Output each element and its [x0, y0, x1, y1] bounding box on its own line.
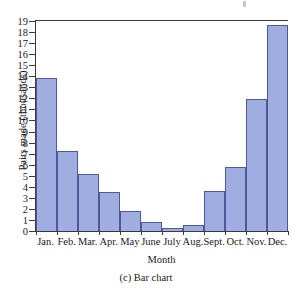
y-tick-label: 7 [23, 148, 28, 159]
y-tick-label: 9 [23, 126, 28, 137]
x-tick-mark [57, 231, 58, 235]
y-tick-label: 5 [23, 170, 28, 181]
x-tick-label: Dec. [267, 236, 288, 247]
x-axis-title: Month [35, 254, 288, 265]
figure-caption: (c) Bar chart [0, 272, 292, 283]
y-tick-mark [29, 187, 36, 188]
y-tick-mark [29, 154, 36, 155]
x-tick-label: Jan. [35, 236, 56, 247]
y-tick-mark [29, 43, 36, 44]
x-tick-mark [162, 231, 163, 235]
y-tick-label: 10 [18, 115, 29, 126]
y-tick-label: 2 [23, 203, 28, 214]
y-tick-label: 1 [23, 214, 28, 225]
x-tick-mark [204, 231, 205, 235]
bar-slot [162, 21, 183, 231]
x-tick-mark [246, 231, 247, 235]
bar [183, 225, 204, 231]
bar [78, 174, 99, 231]
bar [246, 99, 267, 231]
x-tick-label: July [161, 236, 182, 247]
y-tick-mark [29, 132, 36, 133]
x-tick-mark [225, 231, 226, 235]
x-tick-mark [36, 231, 37, 235]
x-tick-label: Feb. [56, 236, 77, 247]
x-tick-label: May [119, 236, 140, 247]
y-tick-mark [29, 65, 36, 66]
y-tick-mark [29, 109, 36, 110]
y-tick-mark [29, 21, 36, 22]
x-tick-mark [141, 231, 142, 235]
bar [141, 222, 162, 231]
bar-slot [183, 21, 204, 231]
y-tick-label: 4 [23, 181, 28, 192]
y-tick-label: 15 [18, 60, 29, 71]
y-tick-mark [29, 176, 36, 177]
y-tick-label: 14 [18, 71, 29, 82]
y-tick-mark [29, 76, 36, 77]
bar-slot [36, 21, 57, 231]
y-tick-mark [29, 54, 36, 55]
bar-slot [57, 21, 78, 231]
bar [204, 191, 225, 231]
x-tick-label: Nov. [246, 236, 267, 247]
plot-area: 012345678910111213141516171819 [35, 20, 288, 232]
bar [99, 192, 120, 231]
y-tick-label: 0 [23, 226, 28, 237]
x-tick-mark [183, 231, 184, 235]
y-tick-mark [29, 220, 36, 221]
y-tick-label: 18 [18, 27, 29, 38]
y-tick-mark [29, 231, 36, 232]
bar-slot [225, 21, 246, 231]
bar [162, 228, 183, 231]
bar [225, 167, 246, 231]
y-tick-mark [29, 32, 36, 33]
bar-slot [204, 21, 225, 231]
y-tick-label: 6 [23, 159, 28, 170]
x-tick-label: Oct. [225, 236, 246, 247]
x-tick-label: Mar. [77, 236, 98, 247]
bar-slot [246, 21, 267, 231]
bar [120, 211, 141, 231]
bar-chart-figure: Pairs made (thousands) 01234567891011121… [0, 0, 292, 289]
y-tick-mark [29, 198, 36, 199]
y-tick-mark [29, 143, 36, 144]
y-tick-label: 17 [18, 38, 29, 49]
y-tick-mark [29, 87, 36, 88]
y-tick-mark [29, 120, 36, 121]
bar-slot [267, 21, 288, 231]
x-axis-labels: Jan.Feb.Mar.Apr.MayJuneJulyAug.Sept.Oct.… [35, 236, 288, 247]
y-tick-label: 16 [18, 49, 29, 60]
bar-slot [99, 21, 120, 231]
bar [267, 25, 288, 231]
y-tick-label: 8 [23, 137, 28, 148]
x-tick-mark [99, 231, 100, 235]
x-tick-mark [267, 231, 268, 235]
bar [36, 78, 57, 231]
bar [57, 151, 78, 231]
y-tick-mark [29, 98, 36, 99]
x-tick-mark [288, 231, 289, 235]
y-tick-label: 11 [18, 104, 28, 115]
x-tick-mark [120, 231, 121, 235]
y-tick-label: 13 [18, 82, 29, 93]
x-tick-mark [78, 231, 79, 235]
y-tick-label: 19 [18, 16, 29, 27]
x-tick-label: Aug. [182, 236, 203, 247]
bar-slot [141, 21, 162, 231]
y-tick-mark [29, 165, 36, 166]
x-tick-label: June [140, 236, 161, 247]
y-tick-mark [29, 209, 36, 210]
bar-slot [120, 21, 141, 231]
y-tick-label: 3 [23, 192, 28, 203]
bars-container [36, 21, 288, 231]
bar-slot [78, 21, 99, 231]
page-artifact-mark [243, 1, 246, 7]
y-tick-label: 12 [18, 93, 29, 104]
x-tick-label: Sept. [204, 236, 225, 247]
x-tick-label: Apr. [98, 236, 119, 247]
